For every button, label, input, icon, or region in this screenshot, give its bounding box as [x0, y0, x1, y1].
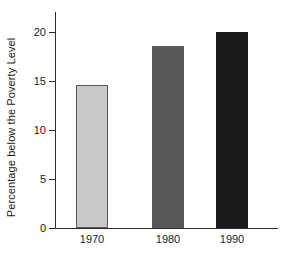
y-axis-tick-label: 10	[6, 125, 46, 136]
y-axis-tick-mark	[49, 81, 56, 82]
y-axis-tick-label: 15	[6, 76, 46, 87]
x-axis-label-1980: 1980	[156, 234, 180, 245]
y-axis-tick-mark	[49, 179, 56, 180]
y-axis-tick-mark	[49, 130, 56, 131]
x-axis-label-1990: 1990	[220, 234, 244, 245]
x-axis-line	[55, 228, 278, 229]
bar-chart: Percentage below the Poverty Level 20151…	[0, 0, 288, 255]
y-axis-line	[55, 12, 56, 229]
bar-1970[interactable]	[76, 85, 108, 228]
x-axis-label-1970: 1970	[80, 234, 104, 245]
y-axis-tick-label: 20	[6, 27, 46, 38]
y-axis-tick-label: 0	[6, 223, 46, 234]
bar-1980[interactable]	[152, 46, 184, 228]
y-axis-tick-mark	[49, 228, 56, 229]
bar-1990[interactable]	[216, 32, 248, 228]
y-axis-tick-label: 5	[6, 174, 46, 185]
y-axis-tick-mark	[49, 32, 56, 33]
